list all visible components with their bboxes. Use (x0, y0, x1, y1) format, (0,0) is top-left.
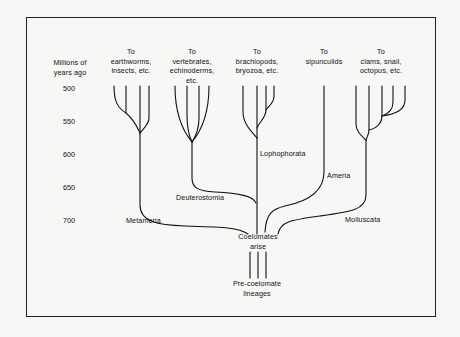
clade-deuterostomia: Deuterostomia (176, 193, 224, 203)
clade-lophophorata: Lophophorata (260, 149, 306, 159)
destination-brachiopods: To brachiopods, bryozoa, etc. (236, 47, 278, 76)
tick-500: 500 (63, 84, 75, 93)
axis-title-line2: years ago (53, 68, 86, 78)
clade-ameria: Ameria (327, 171, 350, 181)
tick-700: 700 (63, 216, 75, 225)
tick-650: 650 (63, 183, 75, 192)
branch-group-clams (278, 86, 405, 234)
tick-550: 550 (63, 117, 75, 126)
axis-title-line1: Millions of (53, 58, 86, 68)
axis-title: Millions of years ago (53, 58, 86, 77)
pre-coelomate-lines (250, 252, 266, 278)
destination-earthworms: To earthworms, insects, etc. (111, 47, 152, 76)
destination-sipunculids: To sipunculids (306, 47, 343, 66)
branch-group-brachiopods (243, 86, 274, 234)
clade-metameria: Metameria (126, 216, 161, 226)
clade-molluscata: Molluscata (345, 215, 380, 225)
branch-group-earthworms (114, 86, 248, 234)
destination-vertebrates: To vertebrates, echinoderms, etc. (170, 47, 214, 85)
branch-group-vertebrates (175, 86, 256, 203)
tick-600: 600 (63, 150, 75, 159)
destination-clams: To clams, snail, octopus, etc. (360, 47, 402, 76)
branch-sipunculids (265, 86, 324, 232)
base-label: Pre-coelomate lineages (233, 279, 281, 298)
origin-label: Coelomates arise (238, 232, 277, 251)
